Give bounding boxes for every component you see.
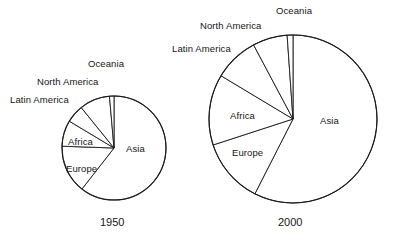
year-label-2000: 2000 (278, 216, 302, 228)
label-2000-latin-america: Latin America (172, 43, 231, 54)
label-2000-north-america: North America (200, 20, 262, 31)
label-2000-asia: Asia (320, 115, 339, 126)
label-1950-oceania: Oceania (88, 58, 124, 69)
label-2000-europe: Europe (232, 147, 263, 158)
label-2000-oceania: Oceania (276, 5, 312, 16)
label-1950-north-america: North America (37, 76, 99, 87)
label-1950-asia: Asia (126, 143, 145, 154)
label-1950-africa: Africa (68, 136, 93, 147)
pie-chart-figure: Oceania North America Latin America Afri… (0, 0, 394, 247)
label-1950-europe: Europe (66, 163, 97, 174)
year-label-1950: 1950 (100, 216, 124, 228)
pie-chart-1950 (62, 96, 166, 200)
label-1950-latin-america: Latin America (10, 94, 69, 105)
label-2000-africa: Africa (230, 110, 255, 121)
